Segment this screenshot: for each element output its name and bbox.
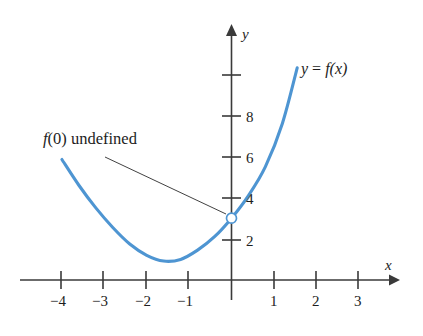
y-axis-arrow-icon — [226, 24, 237, 36]
x-tick-label-3: 3 — [354, 294, 362, 309]
open-circle-hole-marker — [227, 213, 237, 223]
x-tick-label-1: 1 — [270, 294, 278, 309]
graph-canvas — [0, 0, 423, 336]
y-tick-label-2: 2 — [246, 234, 254, 249]
function-graph-figure: y x −4 −3 −2 −1 1 2 3 2 4 6 8 f(0) undef… — [0, 0, 423, 336]
y-tick-label-4: 4 — [246, 192, 254, 207]
y-axis-label: y — [242, 27, 249, 42]
x-tick-label-neg1: −1 — [177, 294, 193, 309]
curve-equation-label: y = f(x) — [301, 61, 347, 77]
x-tick-label-neg4: −4 — [50, 294, 66, 309]
y-tick-label-8: 8 — [246, 110, 254, 125]
undefined-annotation-rest: (0) undefined — [48, 129, 137, 148]
y-tick-label-6: 6 — [246, 151, 254, 166]
curve-equation-arg: (x) — [330, 60, 348, 77]
curve-equation-y: y — [301, 60, 308, 77]
annotation-leader-line — [105, 157, 226, 214]
x-axis-label: x — [385, 258, 392, 273]
undefined-annotation: f(0) undefined — [43, 131, 137, 148]
x-tick-label-neg3: −3 — [92, 294, 108, 309]
x-axis-arrow-icon — [389, 275, 400, 286]
function-curve — [62, 68, 297, 262]
x-tick-label-2: 2 — [312, 294, 320, 309]
x-tick-label-neg2: −2 — [135, 294, 151, 309]
curve-equation-equals: = — [312, 60, 321, 77]
